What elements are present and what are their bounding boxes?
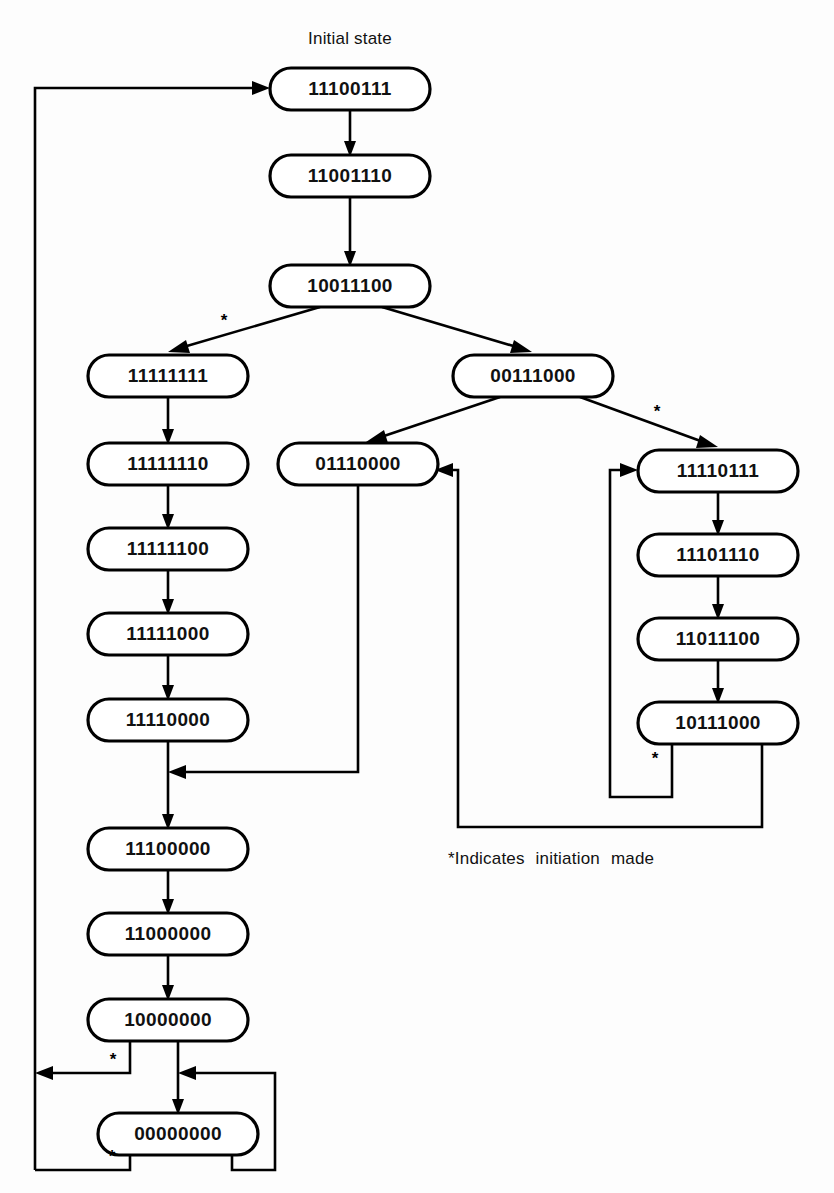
edge-n10-n12 xyxy=(162,655,174,701)
state-node-label: 11100000 xyxy=(125,838,211,859)
edge-n0-n1 xyxy=(344,110,356,157)
state-node-11101110[interactable]: 11101110 xyxy=(638,534,798,576)
edge-n4-n7 xyxy=(580,397,718,448)
state-node-label: 10111000 xyxy=(675,712,761,733)
state-node-11000000[interactable]: 11000000 xyxy=(88,913,248,955)
edge-n2-n4 xyxy=(382,307,532,353)
state-node-11111000[interactable]: 11111000 xyxy=(88,613,248,655)
state-node-11110111[interactable]: 11110111 xyxy=(638,450,798,492)
state-node-label: 11111110 xyxy=(127,453,208,474)
state-node-11111100[interactable]: 11111100 xyxy=(88,528,248,570)
state-diagram-canvas: 11100111 11001110 10011100 11111111 0011… xyxy=(0,0,834,1193)
state-node-label: 11111000 xyxy=(126,623,210,644)
state-node-00111000[interactable]: 00111000 xyxy=(453,355,613,397)
edge-n15-n16 xyxy=(162,955,174,1001)
state-transition-diagram: 11100111 11001110 10011100 11111111 0011… xyxy=(0,0,834,1193)
edge-n2-n3 xyxy=(168,307,320,353)
state-node-11110000[interactable]: 11110000 xyxy=(88,699,248,741)
edge-n12-n14 xyxy=(162,741,174,830)
asterisk-marker-icon: * xyxy=(109,1147,116,1166)
state-node-10011100[interactable]: 10011100 xyxy=(270,265,430,307)
state-node-label: 11110000 xyxy=(126,709,211,730)
asterisk-marker-icon: * xyxy=(221,311,228,330)
state-node-label: 10011100 xyxy=(307,275,393,296)
state-node-label: 10000000 xyxy=(124,1009,212,1030)
edge-n17-n0 xyxy=(35,1155,130,1170)
edge-n7-n9 xyxy=(712,492,724,536)
state-node-11011100[interactable]: 11011100 xyxy=(638,618,798,660)
state-node-label: 11101110 xyxy=(676,544,760,565)
edge-n4-n6 xyxy=(366,397,500,443)
edge-n3-n5 xyxy=(162,397,174,445)
state-node-11111110[interactable]: 11111110 xyxy=(88,443,248,485)
edge-n1-n2 xyxy=(344,197,356,267)
asterisk-marker-icon: * xyxy=(654,402,661,421)
state-node-00000000[interactable]: 00000000 xyxy=(98,1113,258,1155)
edge-n16-n17 xyxy=(172,1041,184,1115)
state-node-label: 11111111 xyxy=(128,365,208,386)
state-node-label: 01110000 xyxy=(315,453,401,474)
state-node-label: 11110111 xyxy=(677,460,760,481)
state-node-label: 11100111 xyxy=(308,78,392,99)
state-node-11100000[interactable]: 11100000 xyxy=(88,828,248,870)
state-node-01110000[interactable]: 01110000 xyxy=(278,443,438,485)
edge-n11-n13 xyxy=(712,660,724,704)
node-layer: 11100111 11001110 10011100 11111111 0011… xyxy=(88,68,798,1155)
asterisk-marker-icon: * xyxy=(652,749,659,768)
asterisk-marker-icon: * xyxy=(110,1050,117,1069)
state-node-11001110[interactable]: 11001110 xyxy=(270,155,430,197)
initial-state-label: Initial state xyxy=(308,29,392,48)
edge-n9-n11 xyxy=(712,576,724,620)
state-node-label: 00111000 xyxy=(490,365,576,386)
state-node-label: 00000000 xyxy=(134,1123,222,1144)
state-node-label: 11001110 xyxy=(308,165,393,186)
edge-n14-n15 xyxy=(162,870,174,915)
edge-n8-n10 xyxy=(162,570,174,615)
footnote-caption: *Indicates initiation made xyxy=(448,849,654,868)
state-node-label: 11011100 xyxy=(676,628,761,649)
edge-n5-n8 xyxy=(162,485,174,530)
state-node-10111000[interactable]: 10111000 xyxy=(638,702,798,744)
state-node-11111111[interactable]: 11111111 xyxy=(88,355,248,397)
state-node-label: 11111100 xyxy=(127,538,210,559)
state-node-10000000[interactable]: 10000000 xyxy=(88,999,248,1041)
state-node-label: 11000000 xyxy=(125,923,212,944)
state-node-11100111[interactable]: 11100111 xyxy=(270,68,430,110)
